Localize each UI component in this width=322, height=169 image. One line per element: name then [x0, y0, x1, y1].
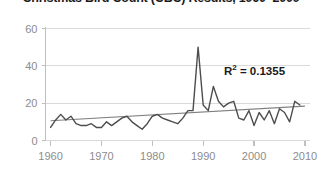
x-tick-2010: 2010 — [293, 150, 317, 162]
y-tick-20: 20 — [25, 97, 37, 109]
r-squared-value: = 0.1355 — [237, 65, 285, 77]
x-tick-1970: 1970 — [89, 150, 113, 162]
x-tick-2000: 2000 — [242, 150, 266, 162]
chart-figure: Christmas Bird Count (CBC) Results, 1960… — [0, 0, 322, 169]
r-squared-annotation: R2 = 0.1355 — [224, 63, 285, 77]
x-tick-1960: 1960 — [38, 150, 62, 162]
chart-plot-area: 0204060 196019701980199020002010 — [0, 0, 322, 169]
y-tick-60: 60 — [25, 23, 37, 35]
x-axis-tick-labels: 196019701980199020002010 — [38, 150, 317, 162]
tick-marks — [42, 29, 305, 146]
x-tick-1980: 1980 — [140, 150, 164, 162]
y-axis-tick-labels: 0204060 — [25, 23, 37, 147]
y-tick-0: 0 — [31, 135, 37, 147]
data-series-path — [51, 47, 300, 129]
y-tick-40: 40 — [25, 60, 37, 72]
x-tick-1990: 1990 — [191, 150, 215, 162]
trendline-path — [51, 106, 305, 121]
